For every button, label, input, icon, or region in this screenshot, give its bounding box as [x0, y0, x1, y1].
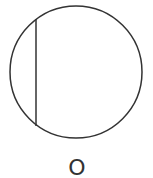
diagram-canvas: O [0, 0, 153, 178]
circle [10, 6, 142, 138]
center-label: O [68, 155, 85, 178]
